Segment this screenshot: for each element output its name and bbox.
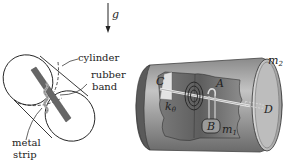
rubber-band-label-line1: rubber <box>91 70 126 80</box>
mass-m1-label: m1 <box>222 124 237 137</box>
metal-strip-label-line2: strip <box>13 150 37 160</box>
mass-m1-subscript: 1 <box>232 129 236 137</box>
point-d-label: D <box>264 104 273 115</box>
mass-m2-label: m2 <box>268 55 283 68</box>
spring-constant-label: kθ <box>165 101 176 114</box>
spring-constant-subscript: θ <box>172 106 176 114</box>
mass-m1-symbol: m <box>222 123 232 136</box>
mass-m2-symbol: m <box>268 54 278 67</box>
rubber-band-label-line2: band <box>92 82 117 92</box>
gravity-label: g <box>112 9 119 20</box>
point-c-label: C <box>156 76 164 87</box>
gravity-arrow-icon <box>106 3 111 33</box>
cylinder-label: cylinder <box>78 53 119 63</box>
point-b-label: B <box>207 121 215 132</box>
diagram-canvas: g cylinder rubber band metal strip C A D… <box>0 0 286 166</box>
point-a-label: A <box>216 78 224 89</box>
right-cylinder-figure <box>136 58 282 152</box>
metal-strip-label-line1: metal <box>12 138 41 148</box>
mass-m2-subscript: 2 <box>278 60 282 68</box>
diagram-svg <box>0 0 286 166</box>
spring-constant-symbol: k <box>165 100 172 113</box>
